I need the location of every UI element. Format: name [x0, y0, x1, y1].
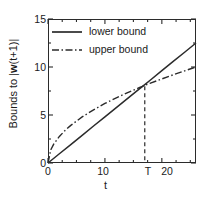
- legend-label-lower-bound: lower bound: [89, 26, 146, 37]
- legend-key-dashdot-icon: [52, 45, 82, 55]
- series-line-lower-bound: [48, 43, 196, 163]
- y-axis-ticks-right: [191, 19, 196, 163]
- x-axis-ticks: [48, 158, 190, 163]
- chart-legend: lower bound upper bound: [52, 24, 148, 60]
- legend-label-upper-bound: upper bound: [89, 44, 148, 55]
- legend-key-solid-icon: [52, 27, 82, 37]
- legend-item-upper-bound: upper bound: [52, 42, 148, 57]
- chart-figure: 15 10 5 0 0 10 T 20 t Bounds to |w(t+1)|…: [0, 0, 211, 199]
- legend-item-lower-bound: lower bound: [52, 24, 148, 39]
- series-line-upper-bound: [48, 67, 196, 163]
